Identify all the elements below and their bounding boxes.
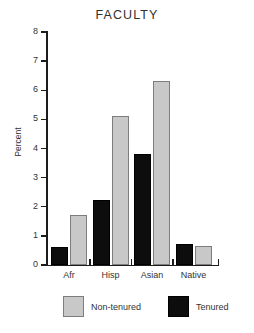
legend-label-tenured: Tenured	[196, 302, 229, 312]
legend-item-non-tenured: Non-tenured	[63, 296, 141, 317]
y-tick-label-5: 5	[22, 114, 38, 123]
bar-non-tenured-afr	[70, 215, 87, 265]
legend-item-tenured: Tenured	[168, 296, 229, 317]
y-tick-label-7: 7	[22, 56, 38, 65]
y-tick-label-3: 3	[22, 173, 38, 182]
bar-non-tenured-asian	[153, 81, 170, 265]
y-tick-label-8: 8	[22, 27, 38, 36]
bar-tenured-asian	[134, 154, 151, 265]
legend-swatch-tenured	[168, 296, 189, 317]
bar-non-tenured-native	[195, 246, 212, 265]
chart-legend: Non-tenured Tenured	[0, 294, 254, 326]
y-tick-label-4: 4	[22, 144, 38, 153]
faculty-bar-chart: FACULTY Percent 012345678 AfrHispAsianNa…	[0, 0, 254, 333]
legend-label-non-tenured: Non-tenured	[91, 302, 141, 312]
x-label-native: Native	[172, 270, 216, 280]
x-label-hisp: Hisp	[89, 270, 133, 280]
plot-area	[47, 32, 219, 265]
bar-tenured-afr	[51, 247, 68, 265]
legend-swatch-non-tenured	[63, 296, 84, 317]
x-label-asian: Asian	[130, 270, 174, 280]
y-tick-label-2: 2	[22, 202, 38, 211]
y-tick-label-1: 1	[22, 231, 38, 240]
bar-tenured-hisp	[93, 200, 110, 265]
bar-tenured-native	[176, 244, 193, 265]
y-tick-label-6: 6	[22, 85, 38, 94]
y-tick-label-0: 0	[22, 260, 38, 269]
x-label-afr: Afr	[47, 270, 91, 280]
chart-title: FACULTY	[0, 8, 254, 22]
bar-non-tenured-hisp	[112, 116, 129, 265]
